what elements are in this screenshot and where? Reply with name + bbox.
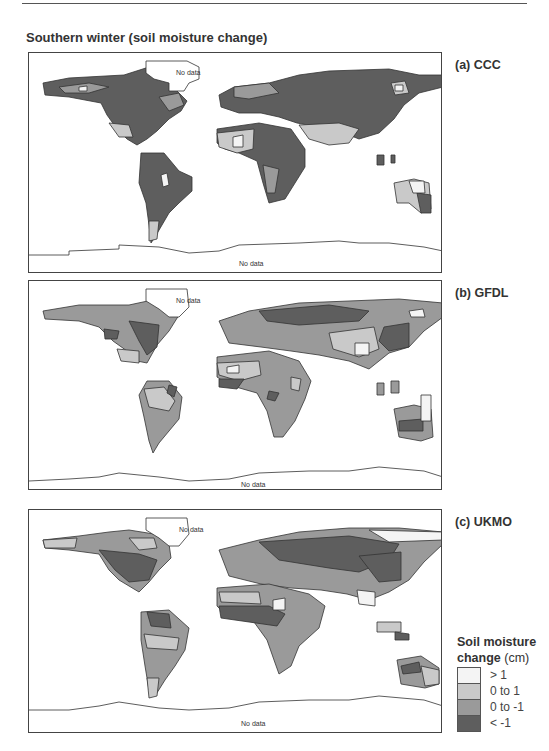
no-data-north-ccc: No data [176,69,201,76]
map-panel-ukmo: No data No data [28,509,442,733]
legend-label-gt1: > 1 [490,668,507,682]
legend-swatches [457,667,481,732]
figure-title: Southern winter (soil moisture change) [26,30,267,45]
world-map-gfdl: No data No data [29,281,442,490]
legend-swatch-ltminus1 [458,716,480,731]
no-data-south-gfdl: No data [241,481,266,488]
legend-unit: (cm) [504,651,529,665]
legend-swatch-0to1 [458,684,480,700]
map-panel-ccc: No data No data [28,52,442,273]
panel-label-ccc: (a) CCC [455,58,501,72]
world-map-ccc: No data No data [29,53,442,273]
world-map-ukmo: No data No data [29,510,442,733]
no-data-south-ccc: No data [239,260,264,267]
no-data-north-ukmo: No data [179,526,204,533]
map-panel-gfdl: No data No data [28,280,442,490]
legend-title-line2: change [457,651,501,665]
panel-label-ukmo: (c) UKMO [455,515,512,529]
legend-title-line1: Soil moisture [457,634,536,650]
no-data-north-gfdl: No data [176,297,201,304]
legend-swatch-0tominus1 [458,700,480,716]
legend-title: Soil moisture change (cm) [457,634,536,666]
panel-label-gfdl: (b) GFDL [455,286,508,300]
legend-label-ltminus1: < -1 [490,716,511,730]
legend-label-0to1: 0 to 1 [490,684,520,698]
legend-label-0tominus1: 0 to -1 [490,700,524,714]
no-data-south-ukmo: No data [241,720,266,727]
legend-swatch-gt1 [458,668,480,684]
page-top-rule [22,3,527,4]
